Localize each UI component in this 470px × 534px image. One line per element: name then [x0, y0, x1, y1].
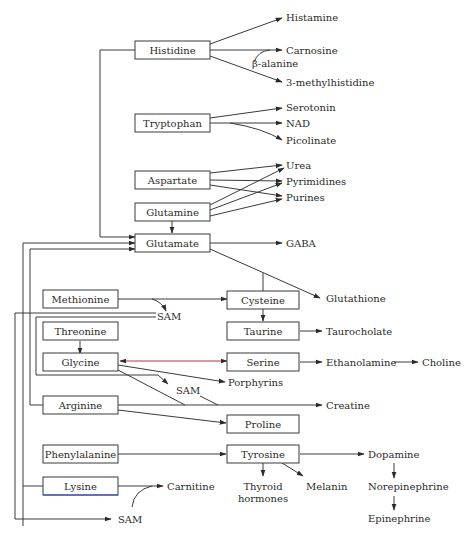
svg-text:Aspartate: Aspartate	[147, 175, 197, 186]
label-purines: Purines	[286, 192, 325, 203]
box-aspartate: Aspartate	[135, 171, 210, 189]
label-nad: NAD	[286, 118, 310, 129]
box-phenylalanine: Phenylalanine	[43, 445, 118, 463]
label-gaba: GABA	[286, 238, 317, 249]
box-histidine: Histidine	[135, 41, 210, 59]
svg-text:Phenylalanine: Phenylalanine	[45, 449, 117, 460]
svg-text:Proline: Proline	[245, 419, 281, 430]
box-glutamine: Glutamine	[135, 203, 210, 221]
label-sam-methionine: SAM	[157, 311, 181, 322]
label-glutathione: Glutathione	[326, 293, 386, 304]
svg-text:Arginine: Arginine	[58, 400, 103, 411]
svg-text:Tryptophan: Tryptophan	[143, 118, 202, 129]
svg-text:Glutamate: Glutamate	[146, 238, 199, 249]
box-glycine: Glycine	[43, 353, 118, 371]
svg-text:Histidine: Histidine	[149, 45, 195, 56]
label-melanin: Melanin	[306, 481, 348, 492]
label-sam-lysine: SAM	[118, 514, 142, 525]
label-thyroid-line2: hormones	[238, 493, 288, 504]
label-porphyrins: Porphyrins	[228, 377, 283, 388]
label-dopamine: Dopamine	[368, 449, 420, 460]
label-urea: Urea	[286, 160, 311, 171]
svg-text:Threonine: Threonine	[55, 326, 107, 337]
label-serotonin: Serotonin	[286, 102, 336, 113]
box-serine: Serine	[227, 353, 299, 371]
label-ethanolamine: Ethanolamine	[326, 357, 396, 368]
label-picolinate: Picolinate	[286, 135, 336, 146]
label-epinephrine: Epinephrine	[368, 513, 431, 524]
box-methionine: Methionine	[43, 290, 118, 308]
label-choline: Choline	[422, 357, 461, 368]
svg-text:Taurine: Taurine	[244, 326, 283, 337]
svg-text:Serine: Serine	[246, 357, 279, 368]
box-tyrosine: Tyrosine	[227, 445, 299, 463]
svg-text:Glutamine: Glutamine	[146, 207, 199, 218]
label-carnosine: Carnosine	[286, 45, 338, 56]
label-beta-alanine: β-alanine	[252, 58, 298, 69]
label-norepinephrine: Norepinephrine	[368, 481, 449, 492]
box-threonine: Threonine	[43, 322, 118, 340]
label-pyrimidines: Pyrimidines	[286, 176, 346, 187]
svg-text:Methionine: Methionine	[52, 294, 110, 305]
label-carnitine: Carnitine	[167, 481, 215, 492]
box-proline: Proline	[227, 415, 299, 433]
amino-acid-pathway-diagram: Histidine Tryptophan Aspartate Glutamine…	[0, 0, 470, 534]
label-histamine: Histamine	[286, 12, 338, 23]
box-cysteine: Cysteine	[227, 291, 299, 309]
svg-text:Glycine: Glycine	[62, 357, 100, 368]
label-thyroid-line1: Thyroid	[243, 481, 283, 492]
box-arginine: Arginine	[43, 396, 118, 414]
box-glutamate: Glutamate	[135, 234, 210, 252]
label-sam-glycine: SAM	[176, 385, 200, 396]
label-3-methylhistidine: 3-methylhistidine	[286, 77, 374, 88]
svg-text:Lysine: Lysine	[64, 481, 97, 492]
label-creatine: Creatine	[326, 400, 370, 411]
label-taurocholate: Taurocholate	[326, 326, 392, 337]
box-lysine: Lysine	[43, 477, 118, 495]
svg-text:Cysteine: Cysteine	[241, 295, 285, 306]
box-taurine: Taurine	[227, 322, 299, 340]
box-tryptophan: Tryptophan	[135, 114, 210, 132]
svg-text:Tyrosine: Tyrosine	[241, 449, 285, 460]
